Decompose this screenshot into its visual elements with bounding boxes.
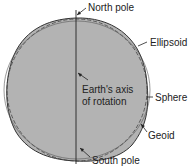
ellipsoid-leader [138,42,147,46]
sphere-label: Sphere [155,92,187,103]
ellipsoid-label: Ellipsoid [150,37,187,48]
axis-label-line2: of rotation [82,96,126,107]
south-pole-label: South pole [92,155,140,166]
axis-label-line1: Earth's axis [82,84,133,95]
north-pole-label: North pole [88,2,134,13]
geoid-label: Geoid [148,130,175,141]
